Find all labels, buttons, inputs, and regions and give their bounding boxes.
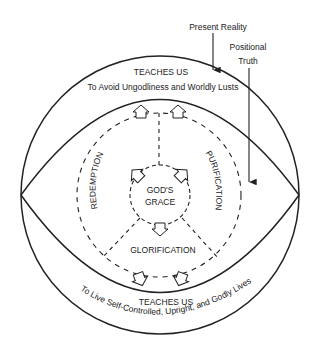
positional-label: Positional: [230, 42, 267, 52]
arrow-icon-bottom-right: [171, 271, 190, 289]
purification-label: PURIFICATION: [204, 149, 224, 211]
redemption-label: REDEMPTION: [87, 150, 105, 210]
upper-lens-arc: [21, 100, 299, 196]
live-text: To Live Self-Controlled, Upright, and Go…: [79, 275, 253, 316]
truth-label: Truth: [238, 56, 258, 66]
glorification-label: GLORIFICATION: [130, 245, 196, 255]
avoid-text: To Avoid Ungodliness and Worldly Lusts: [88, 82, 239, 92]
arrow-icon-inner-right: [172, 164, 193, 185]
lower-lens-arc: [21, 195, 299, 293]
grace-label: GRACE: [145, 197, 176, 207]
grace-diagram: Present Reality Positional Truth TEACHES…: [0, 0, 318, 354]
arrow-icon-inner-left: [126, 164, 147, 185]
arrow-icon-top-right: [170, 105, 186, 118]
teaches-us-top: TEACHES US: [134, 67, 189, 77]
present-reality-label: Present Reality: [189, 22, 247, 32]
gods-label: GOD'S: [147, 185, 174, 195]
